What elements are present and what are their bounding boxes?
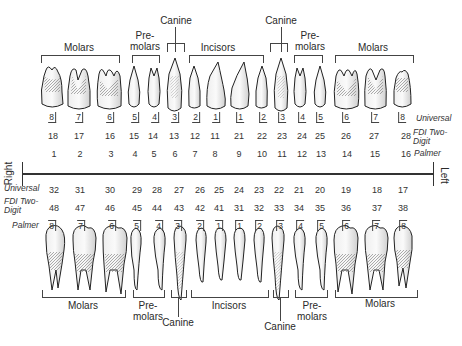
universal-number: 27 <box>174 185 184 195</box>
fdi-number: 17 <box>74 131 84 141</box>
tooth-lower-right-1 <box>215 228 226 280</box>
group-label: Molars <box>64 42 94 53</box>
group-label: molars <box>130 41 160 52</box>
universal-number: 28 <box>152 185 162 195</box>
fdi-number: 12 <box>190 131 200 141</box>
universal-number: 21 <box>294 185 304 195</box>
tooth-upper-left-3 <box>274 58 288 111</box>
bracket <box>294 55 323 63</box>
universal-number: 2 <box>77 149 82 159</box>
fdi-number: 42 <box>195 203 205 213</box>
midline-left-tick <box>433 162 434 186</box>
palmer-notation: 7 <box>371 112 379 123</box>
universal-number: 9 <box>236 149 241 159</box>
tooth-lower-right-7 <box>73 225 96 290</box>
bracket <box>41 55 120 63</box>
palmer-notation: 8 <box>399 220 407 231</box>
tooth-lower-left-5 <box>316 228 327 290</box>
group-label: Incisors <box>212 300 246 311</box>
palmer-notation: 5 <box>131 112 139 123</box>
palmer-notation: 8 <box>48 220 56 231</box>
universal-number: 31 <box>75 185 85 195</box>
tooth-lower-right-3 <box>174 226 186 300</box>
row-label-palmer-upper: Palmer <box>414 149 441 158</box>
tooth-upper-left-7 <box>365 69 387 109</box>
fdi-number: 45 <box>132 203 142 213</box>
universal-number: 1 <box>51 149 56 159</box>
tooth-lower-left-4 <box>294 228 305 290</box>
tooth-upper-right-2 <box>189 66 201 108</box>
midline-divider <box>22 173 434 175</box>
leader-line <box>280 297 281 321</box>
tooth-lower-right-6 <box>103 225 127 294</box>
palmer-notation: 5 <box>317 220 325 231</box>
bracket <box>171 290 187 298</box>
group-label: Canine <box>264 321 296 332</box>
palmer-notation: 8 <box>398 112 406 123</box>
tooth-lower-left-2 <box>254 228 264 282</box>
palmer-notation: 3 <box>278 112 286 123</box>
bracket <box>295 290 328 298</box>
fdi-number: 15 <box>129 131 139 141</box>
tooth-upper-right-1 <box>207 62 226 109</box>
bracket <box>167 43 185 52</box>
tooth-lower-left-8 <box>394 226 412 288</box>
bracket <box>335 290 418 298</box>
palmer-notation: 4 <box>155 220 163 231</box>
tooth-upper-left-4 <box>294 68 306 107</box>
tooth-upper-left-5 <box>314 66 326 107</box>
tooth-lower-right-8 <box>46 226 65 291</box>
universal-number: 6 <box>172 149 177 159</box>
universal-number: 11 <box>277 149 286 159</box>
row-label-universal-lower: Universal <box>4 184 39 193</box>
row-label-fdi-line2: Digit <box>413 137 447 146</box>
tooth-lower-right-5 <box>131 228 141 290</box>
palmer-notation: 4 <box>296 220 304 231</box>
palmer-notation: 5 <box>133 220 141 231</box>
fdi-number: 35 <box>315 203 325 213</box>
palmer-notation: 1 <box>212 112 220 123</box>
left-side-label: Left <box>439 163 450 189</box>
bracket <box>42 290 126 298</box>
universal-number: 13 <box>316 149 326 159</box>
tooth-upper-left-6 <box>334 70 359 109</box>
fdi-number: 38 <box>398 203 408 213</box>
fdi-number: 34 <box>294 203 304 213</box>
palmer-notation: 2 <box>192 112 200 123</box>
tooth-upper-right-8 <box>41 67 63 107</box>
fdi-number: 27 <box>369 131 379 141</box>
group-label: molars <box>295 41 325 52</box>
group-label: Molars <box>358 42 388 53</box>
universal-number: 7 <box>192 149 197 159</box>
bracket <box>335 55 414 63</box>
fdi-number: 24 <box>297 131 307 141</box>
universal-number: 32 <box>49 185 59 195</box>
tooth-lower-left-7 <box>365 225 388 290</box>
universal-number: 3 <box>108 149 113 159</box>
universal-number: 10 <box>257 149 267 159</box>
universal-number: 22 <box>274 185 284 195</box>
group-label: molars <box>133 311 163 322</box>
tooth-upper-right-6 <box>97 69 121 109</box>
bracket <box>189 55 264 63</box>
tooth-upper-right-3 <box>167 58 182 111</box>
universal-number: 26 <box>195 185 205 195</box>
tooth-upper-right-7 <box>68 69 91 109</box>
group-label: Molars <box>68 300 98 311</box>
fdi-number: 32 <box>254 203 264 213</box>
universal-number: 4 <box>132 149 137 159</box>
palmer-notation: 1 <box>236 112 244 123</box>
fdi-number: 31 <box>234 203 244 213</box>
palmer-notation: 3 <box>171 112 179 123</box>
palmer-notation: 2 <box>255 220 263 231</box>
tooth-upper-left-8 <box>394 70 411 107</box>
fdi-number: 37 <box>372 203 382 213</box>
fdi-number: 41 <box>214 203 224 213</box>
universal-number: 15 <box>370 149 380 159</box>
group-label: Molars <box>365 298 395 309</box>
fdi-number: 48 <box>49 203 59 213</box>
universal-number: 25 <box>214 185 224 195</box>
fdi-number: 26 <box>341 131 351 141</box>
universal-number: 18 <box>372 185 382 195</box>
row-label-universal-upper: Universal <box>416 114 451 123</box>
